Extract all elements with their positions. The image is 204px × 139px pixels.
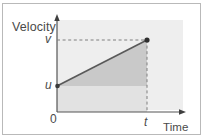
x-tick-label-t: t <box>144 116 147 128</box>
x-axis-label: Time <box>163 122 189 134</box>
data-point-end <box>144 37 149 42</box>
data-point-start <box>55 84 60 89</box>
y-tick-label-v: v <box>45 33 51 45</box>
x-axis-arrowhead <box>179 109 186 114</box>
rectangle-region <box>57 86 147 112</box>
y-tick-label-u: u <box>45 79 52 91</box>
velocity-time-diagram: Velocity Time v u 0 t <box>0 0 204 139</box>
origin-label: 0 <box>50 113 57 125</box>
